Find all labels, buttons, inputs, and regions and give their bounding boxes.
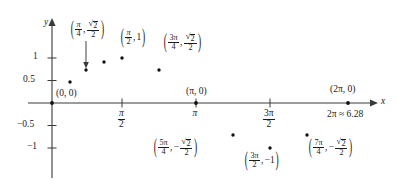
x-tick-label-three-pi-over-2: 3π 2 xyxy=(262,109,276,129)
data-point xyxy=(120,56,123,59)
coord-label-five-pi-over-4: ( 5π 4 , − √ 2 2 ) xyxy=(153,138,198,157)
y-tick-label-minus-0point5: −0.5 xyxy=(17,120,34,130)
coord-label-three-pi-over-2: ( 3π 2 , −1 ) xyxy=(244,152,279,170)
pi-over-2-x-den: 2 xyxy=(125,38,131,46)
three-pi-over-2-y-value: −1 xyxy=(265,156,275,166)
seven-pi-over-4-y-sign: − xyxy=(329,143,334,153)
pi-over-4-x-den: 4 xyxy=(75,30,81,38)
paren-open: ( xyxy=(164,32,167,52)
sine-points-figure: y x 1 0.5 −0.5 −1 π 2 π 3π 2 (0, 0) (π, … xyxy=(0,0,398,186)
pi-over-2-y-value: 1 xyxy=(137,33,142,43)
paren-open: ( xyxy=(245,151,248,171)
three-pi-over-2-x-den: 2 xyxy=(251,161,257,169)
comma: , xyxy=(180,38,182,48)
seven-pi-over-4-y-den: 2 xyxy=(338,149,344,157)
coord-label-three-pi-over-4: ( 3π 4 , √ 2 2 ) xyxy=(163,33,202,52)
data-point xyxy=(268,146,271,149)
three-pi-over-4-x-den: 4 xyxy=(170,43,176,51)
y-tick-label-1: 1 xyxy=(33,52,38,62)
five-pi-over-4-y-sign: − xyxy=(174,143,179,153)
comma: , xyxy=(133,33,135,43)
data-point xyxy=(102,60,105,63)
paren-close: ) xyxy=(275,151,278,171)
data-point xyxy=(346,101,350,105)
annotation-pointer-arrow xyxy=(83,41,89,69)
coord-label-origin: (0, 0) xyxy=(56,89,77,99)
data-point xyxy=(194,101,198,105)
data-point xyxy=(84,68,87,71)
x-axis-label: x xyxy=(381,97,385,107)
paren-close: ) xyxy=(198,32,201,52)
seven-pi-over-4-x-den: 4 xyxy=(315,148,321,156)
coord-label-pi-over-4: ( π 4 , √ 2 2 ) xyxy=(70,20,105,39)
pi-over-4-y-den: 2 xyxy=(90,31,96,39)
x-axis xyxy=(28,99,378,108)
coord-label-two-pi-zero: (2π, 0) xyxy=(330,85,355,95)
x-tick-label-pi: π xyxy=(193,109,198,119)
x-tick-label-pi-over-2: π 2 xyxy=(117,109,126,129)
five-pi-over-4-y-den: 2 xyxy=(183,149,189,157)
paren-open: ( xyxy=(121,28,124,48)
paren-close: ) xyxy=(101,19,104,39)
two-pi-approximation-note: 2π ≈ 6.28 xyxy=(327,110,363,120)
paren-close: ) xyxy=(142,28,145,48)
data-point xyxy=(68,80,71,83)
five-pi-over-4-x-den: 4 xyxy=(160,148,166,156)
y-axis-label: y xyxy=(44,18,48,28)
coord-label-pi-zero: (π, 0) xyxy=(186,87,207,97)
data-point xyxy=(231,133,234,136)
paren-open: ( xyxy=(71,19,74,39)
data-point xyxy=(50,101,54,105)
comma: , xyxy=(83,25,85,35)
y-tick-label-0point5: 0.5 xyxy=(23,75,35,85)
data-point xyxy=(157,68,160,71)
coord-label-seven-pi-over-4: ( 7π 4 , − √ 2 2 ) xyxy=(308,138,353,157)
three-pi-over-4-y-den: 2 xyxy=(187,44,193,52)
x-tick-three-pi-over-2-denominator: 2 xyxy=(265,120,272,130)
comma: , xyxy=(325,143,327,153)
y-tick-label-minus-1: −1 xyxy=(27,142,37,152)
paren-open: ( xyxy=(309,137,312,157)
coord-label-pi-over-2: ( π 2 , 1 ) xyxy=(120,29,146,47)
paren-open: ( xyxy=(154,137,157,157)
comma: , xyxy=(261,156,263,166)
x-tick-pi-over-2-denominator: 2 xyxy=(118,120,125,130)
comma: , xyxy=(170,143,172,153)
paren-close: ) xyxy=(194,137,197,157)
paren-close: ) xyxy=(349,137,352,157)
